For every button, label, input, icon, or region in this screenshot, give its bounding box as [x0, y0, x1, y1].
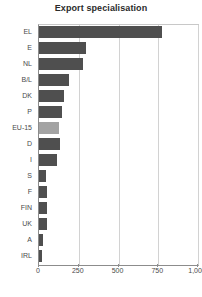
bar-d — [39, 138, 60, 150]
x-axis-tick-mark — [197, 264, 198, 267]
y-axis-tick-eu-15: EU-15 — [0, 120, 35, 136]
y-axis-tick-i: I — [0, 152, 35, 168]
bar-row — [39, 40, 198, 56]
bar-row — [39, 248, 198, 264]
x-axis-labels: 02505007501,000 — [0, 267, 202, 281]
y-axis-tick-nl: NL — [0, 56, 35, 72]
y-axis-tick-p: P — [0, 104, 35, 120]
x-axis-tick-label-250: 250 — [72, 267, 84, 274]
bar-row — [39, 152, 198, 168]
y-axis-tick-irl: IRL — [0, 248, 35, 264]
bar-row — [39, 216, 198, 232]
bar-el — [39, 26, 162, 38]
bar-row — [39, 104, 198, 120]
y-axis-tick-el: EL — [0, 24, 35, 40]
gridline-1000 — [198, 25, 199, 265]
y-axis-tick-fin: FIN — [0, 200, 35, 216]
y-axis-tick-f: F — [0, 184, 35, 200]
y-axis-tick-d: D — [0, 136, 35, 152]
bar-row — [39, 24, 198, 40]
bar-fin — [39, 202, 47, 214]
x-axis-tick-label-1000: 1,000 — [188, 267, 202, 274]
y-axis-tick-e: E — [0, 40, 35, 56]
chart-title: Export specialisation — [0, 3, 202, 14]
y-axis-tick-a: A — [0, 232, 35, 248]
bar-row — [39, 232, 198, 248]
y-axis-tick-dk: DK — [0, 88, 35, 104]
export-specialisation-chart: Export specialisation ELENLB/LDKPEU-15DI… — [0, 0, 202, 297]
y-axis-labels: ELENLB/LDKPEU-15DISFFINUKAIRL — [0, 24, 35, 264]
bar-row — [39, 72, 198, 88]
bar-row — [39, 200, 198, 216]
bar-s — [39, 170, 46, 182]
x-axis-tick-label-750: 750 — [151, 267, 163, 274]
bar-eu-15 — [39, 122, 59, 134]
bar-row — [39, 168, 198, 184]
bar-row — [39, 136, 198, 152]
bar-dk — [39, 90, 64, 102]
bar-p — [39, 106, 62, 118]
bar-row — [39, 120, 198, 136]
bars-layer — [39, 24, 198, 264]
bar-nl — [39, 58, 83, 70]
y-axis-tick-uk: UK — [0, 216, 35, 232]
bar-row — [39, 184, 198, 200]
bar-f — [39, 186, 47, 198]
x-axis-tick-mark — [118, 264, 119, 267]
bar-irl — [39, 250, 42, 262]
bar-row — [39, 88, 198, 104]
x-axis-tick-mark — [38, 264, 39, 267]
bar-e — [39, 42, 86, 54]
x-axis-tick-mark — [157, 264, 158, 267]
x-axis-tick-mark — [78, 264, 79, 267]
bar-uk — [39, 218, 47, 230]
bar-row — [39, 56, 198, 72]
y-axis-tick-s: S — [0, 168, 35, 184]
x-axis-tick-label-500: 500 — [112, 267, 124, 274]
bar-i — [39, 154, 57, 166]
bar-a — [39, 234, 43, 246]
x-axis-tick-label-0: 0 — [36, 267, 40, 274]
y-axis-tick-b-l: B/L — [0, 72, 35, 88]
bar-b-l — [39, 74, 69, 86]
